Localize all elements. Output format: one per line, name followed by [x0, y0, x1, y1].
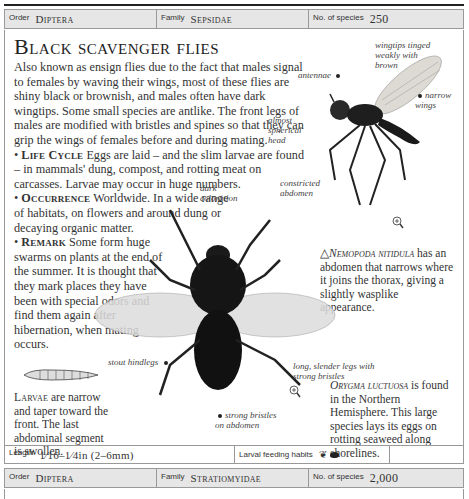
annotation-stout-hindlegs: stout hindlegs — [108, 357, 171, 367]
annotation-constricted-abdomen: constricted abdomen — [280, 178, 320, 198]
order-value: Diptera — [35, 13, 73, 25]
family-value: Sepsidae — [191, 13, 232, 25]
top-rule — [4, 4, 464, 6]
length-label: Length — [9, 448, 33, 457]
nemopoda-caption: △Nemopoda nitidula has an abdomen that n… — [320, 247, 455, 315]
next-entry-body — [4, 489, 464, 499]
annotation-wingtips: wingtips tinged weakly with brown — [375, 40, 435, 70]
occurrence-label: Occurrence — [21, 191, 90, 205]
remark-label: Remark — [21, 235, 66, 249]
family-label: Family — [161, 13, 185, 22]
order-label: Order — [9, 13, 29, 22]
plant-matter-icon: ❦ — [319, 449, 327, 460]
next-order-label: Order — [9, 472, 29, 481]
annotation-strong-bristles: strong bristles on abdomen — [215, 410, 285, 430]
magnifier-icon — [392, 216, 404, 230]
taxonomy-header: Order Diptera Family Sepsidae No. of spe… — [4, 9, 464, 29]
feeding-label: Larval feeding habits — [239, 450, 313, 459]
next-family-value: Stratiomyidae — [191, 472, 261, 484]
annotation-spherical-head: almost spherical head — [268, 115, 304, 145]
entry-footer: Length 1⁄16–1⁄4in (2–6mm) Larval feeding… — [4, 445, 464, 464]
orygma-name: Orygma luctuosa — [330, 379, 408, 391]
next-order-value: Diptera — [35, 472, 73, 484]
species-cell: No. of species 250 — [309, 10, 463, 28]
species-value: 250 — [370, 12, 389, 27]
feeding-cell: Larval feeding habits ❦ — [235, 446, 390, 463]
life-cycle-label: Life Cycle — [21, 148, 83, 162]
order-cell: Order Diptera — [5, 10, 157, 28]
next-family-label: Family — [161, 472, 185, 481]
next-order-cell: Order Diptera — [5, 469, 157, 487]
length-cell: Length 1⁄16–1⁄4in (2–6mm) — [5, 446, 235, 463]
next-species-label: No. of species — [313, 472, 364, 481]
annotation-narrow-wings: narrow wings — [415, 90, 455, 110]
next-entry-header: Order Diptera Family Stratiomyidae No. o… — [4, 468, 464, 488]
larvae-label: Larvae — [14, 391, 48, 403]
annotation-slender-legs: long, slender legs with strong bristles — [293, 361, 383, 381]
annotation-dark-coloration: dark coloration — [200, 183, 250, 203]
next-species-value: 2,000 — [370, 471, 399, 486]
nemopoda-name: Nemopoda nitidula — [329, 247, 414, 259]
species-label: No. of species — [313, 13, 364, 22]
length-value: 1⁄16–1⁄4in (2–6mm) — [39, 449, 133, 461]
entry-title: Black scavenger flies — [14, 34, 219, 60]
dung-icon — [330, 452, 339, 458]
magnifier-icon-2 — [289, 385, 301, 399]
next-species-cell: No. of species 2,000 — [309, 469, 463, 487]
annotation-antennae: antennae — [298, 70, 343, 80]
intro-paragraph: Also known as ensign flies due to the fa… — [14, 60, 304, 148]
family-cell: Family Sepsidae — [157, 10, 309, 28]
larva-illustration — [22, 366, 102, 384]
life-cycle-paragraph: • Life Cycle Eggs are laid – and the sli… — [14, 148, 304, 192]
next-family-cell: Family Stratiomyidae — [157, 469, 309, 487]
